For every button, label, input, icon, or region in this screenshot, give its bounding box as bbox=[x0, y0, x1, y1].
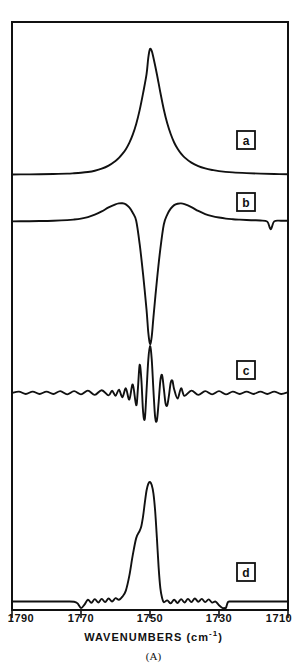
panel-label-d: d bbox=[242, 566, 249, 580]
trace-a bbox=[12, 49, 288, 175]
trace-d bbox=[12, 482, 288, 608]
panel-label-b: b bbox=[242, 196, 249, 210]
x-tick-label: 1710 bbox=[266, 612, 292, 624]
x-axis-title-main: WAVENUMBERS (cm bbox=[84, 631, 209, 643]
panel-label-c: c bbox=[243, 364, 250, 378]
x-axis-title: WAVENUMBERS (cm-1) bbox=[0, 629, 307, 643]
x-tick-label: 1750 bbox=[137, 612, 163, 624]
x-axis-title-exponent: -1 bbox=[209, 629, 218, 638]
figure-caption: (A) bbox=[0, 650, 307, 662]
trace-c bbox=[12, 346, 288, 422]
x-tick-label: 1790 bbox=[8, 612, 34, 624]
x-tick-label: 1770 bbox=[68, 612, 94, 624]
panel-label-a: a bbox=[243, 134, 250, 148]
x-axis-title-close: ) bbox=[218, 631, 223, 643]
plot-frame bbox=[12, 22, 288, 610]
trace-b bbox=[12, 203, 288, 344]
x-tick-label: 1730 bbox=[206, 612, 232, 624]
panel-label-boxes: abcd bbox=[237, 131, 255, 581]
ir-spectra-figure: abcd bbox=[0, 0, 307, 670]
